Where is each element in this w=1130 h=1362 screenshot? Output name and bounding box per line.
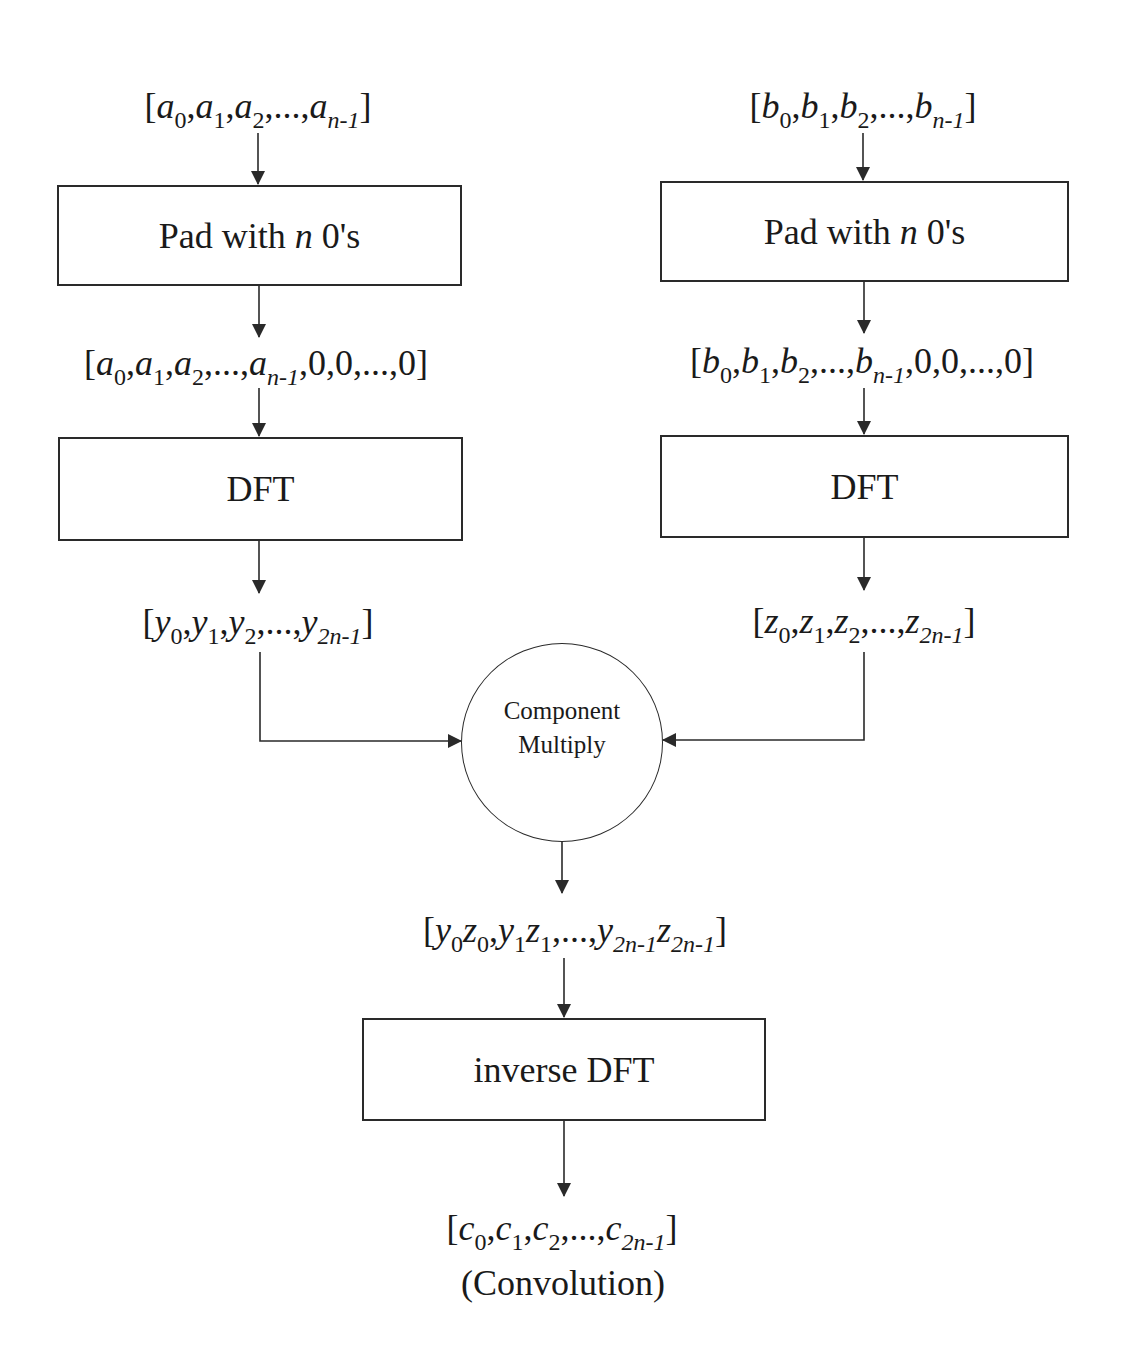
convolution-caption: (Convolution) (461, 1262, 665, 1304)
arrow-z-to-multiply (663, 652, 864, 740)
vector-a-input: [a0,a1,a2,...,an-1] (145, 88, 372, 124)
pad-box-left: Pad with n 0's (57, 185, 462, 286)
dft-box-left: DFT (58, 437, 463, 541)
component-multiply-node: Component Multiply (461, 643, 663, 842)
vector-b-input: [b0,b1,b2,...,bn-1] (750, 88, 977, 124)
vector-a-padded: [a0,a1,a2,...,an-1,0,0,...,0] (84, 345, 428, 381)
inverse-dft-box: inverse DFT (362, 1018, 766, 1121)
pad-box-right: Pad with n 0's (660, 181, 1069, 282)
vector-z: [z0,z1,z2,...,z2n-1] (752, 603, 975, 639)
vector-y: [y0,y1,y2,...,y2n-1] (143, 604, 374, 640)
vector-b-padded: [b0,b1,b2,...,bn-1,0,0,...,0] (690, 343, 1034, 379)
arrow-y-to-multiply (260, 652, 461, 741)
vector-c-output: [c0,c1,c2,...,c2n-1] (447, 1210, 678, 1246)
dft-box-right: DFT (660, 435, 1069, 538)
vector-product: [y0z0,y1z1,...,y2n-1z2n-1] (423, 912, 727, 948)
